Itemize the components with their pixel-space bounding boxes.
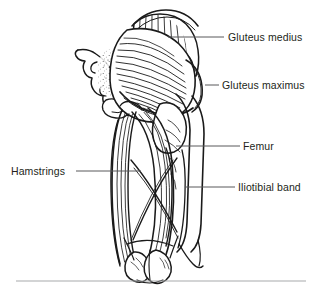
figure-page: Gluteus medius Gluteus maximus Femur Ili… [0, 0, 328, 295]
label-gluteus-medius: Gluteus medius [228, 31, 302, 43]
label-hamstrings: Hamstrings [11, 165, 65, 177]
label-femur: Femur [243, 140, 274, 152]
label-iliotibial-band: Iliotibial band [238, 181, 301, 193]
anatomy-illustration [0, 0, 328, 295]
label-gluteus-maximus: Gluteus maximus [222, 79, 305, 91]
